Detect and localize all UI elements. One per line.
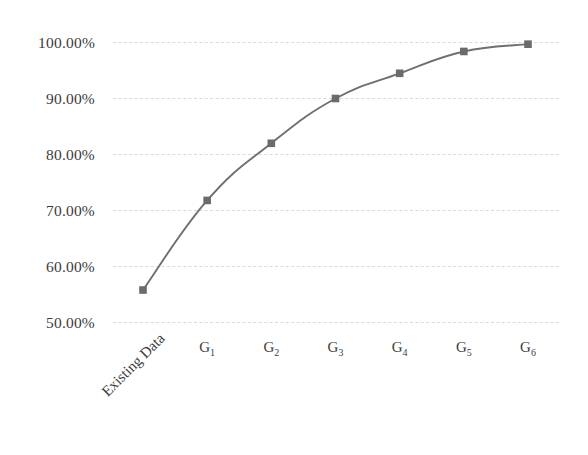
- x-tick-label-G1: G1: [185, 340, 229, 358]
- x-tick-label-G2: G2: [249, 340, 293, 358]
- x-axis-tick-labels: Existing DataG1G2G3G4G5G6: [0, 0, 588, 455]
- x-tick-label-G5: G5: [442, 340, 486, 358]
- x-tick-label-G4: G4: [378, 340, 422, 358]
- x-tick-label-Existing Data: Existing Data: [99, 345, 153, 399]
- x-tick-label-G6: G6: [506, 340, 550, 358]
- x-tick-label-G3: G3: [314, 340, 358, 358]
- line-chart: Existing Data: 55.80%G1: 71.80%G2: 82.00…: [0, 0, 588, 455]
